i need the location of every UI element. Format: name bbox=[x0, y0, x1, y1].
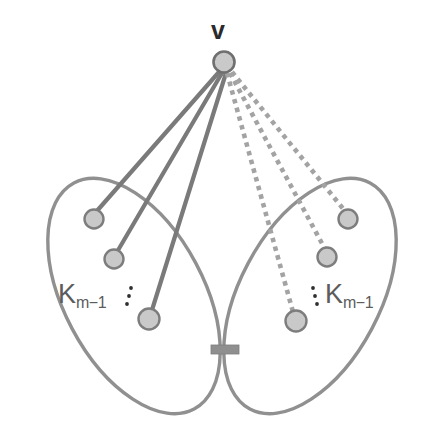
clique-label-right-base: K bbox=[325, 279, 343, 309]
clique-label-left-base: K bbox=[58, 279, 76, 309]
ellipsis-dot bbox=[125, 302, 129, 306]
vertex-v[interactable] bbox=[214, 52, 235, 73]
ellipsis-dot bbox=[127, 294, 131, 298]
vertex-left-2[interactable] bbox=[105, 250, 124, 269]
ellipsis-dot bbox=[315, 302, 319, 306]
figure-canvas: v Km−1 Km−1 bbox=[0, 0, 446, 446]
ellipsis-dot bbox=[313, 294, 317, 298]
edges-dotted-group bbox=[227, 72, 345, 312]
vertex-right-2[interactable] bbox=[318, 248, 337, 267]
vertices-left-group bbox=[85, 210, 160, 330]
vertices-right-group bbox=[286, 210, 358, 332]
clique-label-right-subscript: m−1 bbox=[343, 294, 373, 311]
clique-label-right: Km−1 bbox=[325, 279, 373, 310]
edge-v-to-right-1 bbox=[232, 72, 345, 211]
edges-solid-group bbox=[96, 72, 226, 310]
vertex-right-1[interactable] bbox=[339, 210, 358, 229]
ellipsis-dot bbox=[311, 286, 315, 290]
ellipsis-dot bbox=[129, 286, 133, 290]
vertex-left-3[interactable] bbox=[139, 309, 160, 330]
ellipsis-right bbox=[311, 286, 319, 306]
graph-svg bbox=[0, 0, 446, 446]
clique-boundary-right bbox=[188, 150, 432, 442]
edge-v-to-left-1 bbox=[96, 72, 219, 212]
ellipsis-left bbox=[125, 286, 133, 306]
bridge-edge bbox=[211, 345, 239, 354]
vertex-label-v: v bbox=[211, 16, 225, 45]
clique-label-left-subscript: m−1 bbox=[76, 294, 106, 311]
vertex-right-3[interactable] bbox=[286, 311, 307, 332]
vertex-left-1[interactable] bbox=[85, 210, 104, 229]
clique-label-left: Km−1 bbox=[58, 279, 106, 310]
clique-boundary-left bbox=[12, 150, 256, 442]
